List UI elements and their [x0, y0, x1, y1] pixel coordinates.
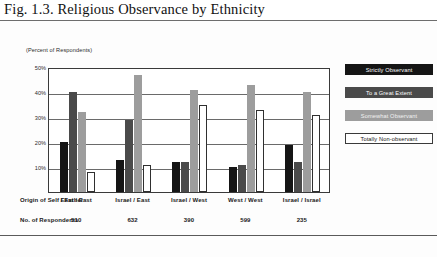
plot-area	[48, 68, 330, 193]
bar	[238, 165, 246, 193]
bar	[87, 172, 95, 192]
axis-unit-label: (Percent of Respondents)	[26, 47, 92, 53]
respondents-row-header: No. of Respondents	[20, 217, 78, 223]
y-tick-label: 10%	[35, 165, 46, 171]
y-tick-label: 50%	[35, 65, 46, 71]
bar-group	[218, 69, 274, 192]
bar	[312, 115, 320, 193]
bar	[256, 110, 264, 193]
respondents-value: 235	[297, 217, 307, 223]
page-title: Fig. 1.3. Religious Observance by Ethnic…	[4, 1, 265, 18]
respondents-value: 510	[71, 217, 81, 223]
chart-legend: Strictly ObservantTo a Great ExtentSomew…	[345, 64, 433, 156]
y-axis: 10%20%30%40%50%	[24, 68, 46, 193]
respondents-value: 632	[127, 217, 137, 223]
bar-group	[162, 69, 218, 192]
bar	[247, 85, 255, 193]
bar	[285, 145, 293, 193]
bar	[125, 120, 133, 193]
bar	[116, 160, 124, 193]
bar	[229, 167, 237, 192]
origin-row: Origin of Self / Father East / EastIsrae…	[0, 197, 437, 209]
bar	[69, 92, 77, 192]
bar-group	[105, 69, 161, 192]
bar	[199, 105, 207, 193]
bar	[172, 162, 180, 192]
category-label: Israel / Israel	[283, 197, 321, 203]
bar	[134, 75, 142, 193]
category-label: East / East	[60, 197, 91, 203]
respondents-row: No. of Respondents 510632390599235	[0, 217, 437, 229]
respondents-value: 390	[184, 217, 194, 223]
bar-group	[275, 69, 331, 192]
bar	[303, 92, 311, 192]
legend-item[interactable]: Somewhat Observant	[345, 110, 433, 121]
category-label: West / West	[228, 197, 263, 203]
legend-item[interactable]: To a Great Extent	[345, 87, 433, 98]
chart-panel: (Percent of Respondents) 10%20%30%40%50%…	[0, 21, 437, 257]
bar	[181, 162, 189, 192]
respondents-value: 599	[240, 217, 250, 223]
category-label: Israel / West	[171, 197, 207, 203]
y-tick-label: 30%	[35, 115, 46, 121]
bar-group	[49, 69, 105, 192]
bar	[294, 162, 302, 192]
bar	[78, 112, 86, 192]
bars-layer	[49, 69, 329, 192]
category-label: Israel / East	[115, 197, 150, 203]
legend-item[interactable]: Totally Non-observant	[345, 133, 433, 144]
bottom-divider	[0, 235, 437, 236]
bar	[60, 142, 68, 192]
bar	[190, 90, 198, 193]
y-tick-label: 20%	[35, 140, 46, 146]
bar	[143, 165, 151, 193]
legend-item[interactable]: Strictly Observant	[345, 64, 433, 75]
y-tick-label: 40%	[35, 90, 46, 96]
